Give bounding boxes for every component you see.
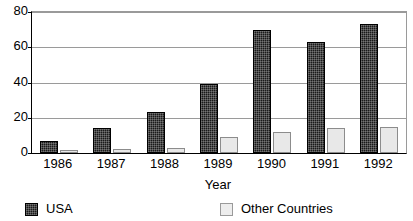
bar-usa (200, 84, 218, 153)
x-axis-tick-label: 1991 (298, 156, 351, 171)
x-axis-tick-labels: 1986198719881989199019911992 (31, 156, 405, 174)
x-axis-tick-label: 1990 (245, 156, 298, 171)
legend-swatch-usa-icon (25, 203, 38, 216)
x-axis-tick-label: 1992 (352, 156, 405, 171)
bar-usa (93, 128, 111, 153)
bar-group (353, 12, 406, 153)
legend-label-other-countries: Other Countries (241, 202, 333, 216)
y-axis-tick-label: 80 (1, 4, 28, 17)
y-axis: 020406080 (0, 0, 28, 221)
bar-group (192, 12, 245, 153)
bar-group (32, 12, 85, 153)
bar-group (139, 12, 192, 153)
bar-other-countries (273, 132, 291, 153)
x-axis-tick-label: 1989 (191, 156, 244, 171)
bar-usa (147, 112, 165, 153)
bars-layer (32, 12, 406, 153)
bar-usa (40, 141, 58, 153)
chart-legend: USA Other Countries (0, 199, 413, 221)
y-axis-tick-label: 20 (1, 110, 28, 123)
x-axis-tick-label: 1986 (31, 156, 84, 171)
legend-label-usa: USA (46, 202, 73, 216)
bar-other-countries (60, 150, 78, 153)
legend-entry-other-countries: Other Countries (220, 199, 333, 219)
y-axis-tick-label: 0 (1, 145, 28, 158)
bar-chart: 020406080 1986198719881989199019911992 Y… (0, 0, 413, 221)
y-axis-tick-label: 40 (1, 75, 28, 88)
bar-group (85, 12, 138, 153)
bar-group (299, 12, 352, 153)
bar-usa (360, 24, 378, 153)
legend-entry-usa: USA (25, 199, 73, 219)
y-axis-tick-label: 60 (1, 39, 28, 52)
x-axis-title: Year (31, 177, 405, 192)
bar-other-countries (327, 128, 345, 153)
bar-other-countries (167, 148, 185, 153)
bar-other-countries (113, 149, 131, 153)
bar-usa (307, 42, 325, 153)
bar-usa (253, 30, 271, 153)
bar-other-countries (220, 137, 238, 153)
bar-other-countries (380, 127, 398, 153)
plot-area (31, 11, 407, 154)
x-axis-tick-label: 1988 (138, 156, 191, 171)
y-axis-tick-mark (28, 153, 32, 154)
bar-group (246, 12, 299, 153)
x-axis-tick-label: 1987 (84, 156, 137, 171)
legend-swatch-other-countries-icon (220, 203, 233, 216)
